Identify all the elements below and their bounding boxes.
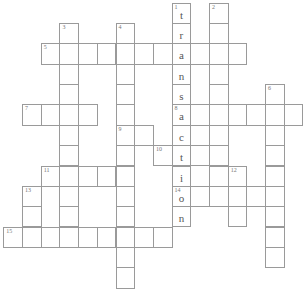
crossword-cell[interactable]: [265, 227, 285, 248]
crossword-cell[interactable]: a: [172, 43, 192, 64]
crossword-cell[interactable]: [59, 145, 79, 166]
crossword-cell[interactable]: [265, 125, 285, 146]
crossword-cell[interactable]: [22, 206, 42, 227]
crossword-cell[interactable]: [134, 227, 154, 248]
crossword-cell[interactable]: [190, 104, 210, 125]
crossword-cell[interactable]: [116, 206, 136, 227]
crossword-cell[interactable]: 4: [116, 23, 136, 44]
crossword-cell[interactable]: [209, 186, 229, 207]
crossword-cell[interactable]: [265, 206, 285, 227]
crossword-cell[interactable]: [209, 64, 229, 85]
crossword-cell[interactable]: [190, 145, 210, 166]
crossword-cell[interactable]: [209, 145, 229, 166]
crossword-cell[interactable]: [265, 186, 285, 207]
crossword-cell[interactable]: [265, 166, 285, 187]
crossword-cell[interactable]: [116, 247, 136, 268]
clue-number: 2: [212, 4, 215, 11]
crossword-cell[interactable]: [59, 206, 79, 227]
crossword-cell[interactable]: [116, 145, 136, 166]
crossword-cell[interactable]: [41, 227, 61, 248]
crossword-cell[interactable]: [59, 166, 79, 187]
crossword-cell[interactable]: [22, 227, 42, 248]
crossword-cell[interactable]: 14o: [172, 186, 192, 207]
crossword-cell[interactable]: [265, 145, 285, 166]
crossword-cell[interactable]: [209, 84, 229, 105]
crossword-cell[interactable]: [284, 104, 304, 125]
crossword-cell[interactable]: [78, 104, 98, 125]
crossword-cell[interactable]: [134, 125, 154, 146]
crossword-cell[interactable]: [116, 186, 136, 207]
crossword-cell[interactable]: 13: [22, 186, 42, 207]
crossword-cell[interactable]: [209, 166, 229, 187]
crossword-cell[interactable]: [59, 104, 79, 125]
crossword-cell[interactable]: [116, 43, 136, 64]
crossword-cell[interactable]: 8a: [172, 104, 192, 125]
crossword-cell[interactable]: [190, 186, 210, 207]
crossword-cell[interactable]: [228, 43, 248, 64]
crossword-cell[interactable]: 5: [41, 43, 61, 64]
crossword-cell[interactable]: [116, 84, 136, 105]
clue-number: 3: [62, 24, 65, 31]
crossword-cell[interactable]: n: [172, 206, 192, 227]
crossword-cell[interactable]: [116, 166, 136, 187]
crossword-cell[interactable]: [97, 43, 117, 64]
crossword-cell[interactable]: [134, 43, 154, 64]
crossword-cell[interactable]: [228, 104, 248, 125]
crossword-cell[interactable]: [59, 186, 79, 207]
cell-letter: i: [173, 172, 191, 184]
crossword-cell[interactable]: [228, 206, 248, 227]
crossword-cell[interactable]: [246, 104, 266, 125]
crossword-cell[interactable]: 2: [209, 3, 229, 24]
crossword-cell[interactable]: [116, 267, 136, 288]
crossword-cell[interactable]: 10: [153, 145, 173, 166]
crossword-cell[interactable]: [97, 166, 117, 187]
crossword-cell[interactable]: c: [172, 125, 192, 146]
clue-number: 12: [231, 167, 237, 174]
crossword-cell[interactable]: r: [172, 23, 192, 44]
crossword-cell[interactable]: [153, 227, 173, 248]
crossword-cell[interactable]: [265, 247, 285, 268]
crossword-cell[interactable]: [97, 227, 117, 248]
crossword-cell[interactable]: 7: [22, 104, 42, 125]
crossword-cell[interactable]: [209, 43, 229, 64]
crossword-cell[interactable]: 1t: [172, 3, 192, 24]
crossword-cell[interactable]: 9: [116, 125, 136, 146]
crossword-cell[interactable]: [209, 104, 229, 125]
crossword-cell[interactable]: n: [172, 64, 192, 85]
crossword-cell[interactable]: i: [172, 166, 192, 187]
crossword-cell[interactable]: 6: [265, 84, 285, 105]
crossword-cell[interactable]: [59, 64, 79, 85]
crossword-cell[interactable]: 3: [59, 23, 79, 44]
clue-number: 11: [44, 167, 50, 174]
crossword-cell[interactable]: [116, 104, 136, 125]
crossword-cell[interactable]: 11: [41, 166, 61, 187]
cell-letter: n: [173, 212, 191, 224]
crossword-cell[interactable]: [59, 43, 79, 64]
cell-letter: r: [173, 29, 191, 41]
crossword-cell[interactable]: 12: [228, 166, 248, 187]
crossword-cell[interactable]: [78, 166, 98, 187]
crossword-cell[interactable]: 15: [3, 227, 23, 248]
crossword-cell[interactable]: [59, 125, 79, 146]
clue-number: 9: [119, 126, 122, 133]
crossword-cell[interactable]: s: [172, 84, 192, 105]
crossword-cell[interactable]: [209, 23, 229, 44]
crossword-cell[interactable]: [153, 43, 173, 64]
crossword-cell[interactable]: [59, 227, 79, 248]
cell-letter: t: [173, 9, 191, 21]
crossword-cell[interactable]: [41, 104, 61, 125]
crossword-cell[interactable]: [116, 227, 136, 248]
crossword-cell[interactable]: [190, 43, 210, 64]
crossword-cell[interactable]: [116, 64, 136, 85]
crossword-cell[interactable]: [246, 186, 266, 207]
crossword-cell[interactable]: t: [172, 145, 192, 166]
crossword-cell[interactable]: [265, 104, 285, 125]
crossword-cell[interactable]: [209, 125, 229, 146]
cell-letter: t: [173, 151, 191, 163]
crossword-cell[interactable]: [78, 43, 98, 64]
crossword-cell[interactable]: [78, 227, 98, 248]
crossword-cell[interactable]: [59, 84, 79, 105]
crossword-cell[interactable]: [228, 186, 248, 207]
cell-letter: c: [173, 131, 191, 143]
